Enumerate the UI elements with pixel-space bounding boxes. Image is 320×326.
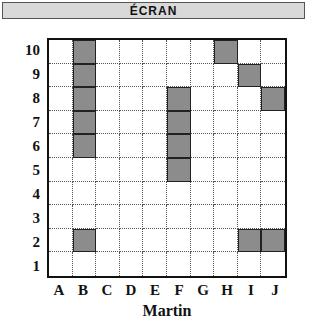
grid-cell-A3[interactable] — [49, 205, 73, 229]
grid-cell-E4[interactable] — [143, 182, 167, 206]
grid-cell-C3[interactable] — [96, 205, 120, 229]
grid-cell-C6[interactable] — [96, 134, 120, 158]
grid-cell-J10[interactable] — [261, 40, 285, 64]
grid-cell-D8[interactable] — [120, 87, 144, 111]
grid-cell-G3[interactable] — [191, 205, 215, 229]
grid-cell-J2[interactable] — [261, 229, 285, 253]
grid-cell-I3[interactable] — [238, 205, 262, 229]
grid-cell-J9[interactable] — [261, 64, 285, 88]
grid-cell-F8[interactable] — [167, 87, 191, 111]
grid-cell-C1[interactable] — [96, 252, 120, 276]
grid-cell-I10[interactable] — [238, 40, 262, 64]
grid-cell-I8[interactable] — [238, 87, 262, 111]
grid-cell-B4[interactable] — [73, 182, 97, 206]
grid-cell-B3[interactable] — [73, 205, 97, 229]
grid-cell-E2[interactable] — [143, 229, 167, 253]
grid-cell-J6[interactable] — [261, 134, 285, 158]
grid-cell-D10[interactable] — [120, 40, 144, 64]
grid-cell-A2[interactable] — [49, 229, 73, 253]
battleship-grid[interactable] — [47, 38, 287, 278]
grid-cell-C8[interactable] — [96, 87, 120, 111]
grid-cell-H5[interactable] — [214, 158, 238, 182]
grid-cell-D2[interactable] — [120, 229, 144, 253]
grid-cell-J3[interactable] — [261, 205, 285, 229]
grid-cell-E5[interactable] — [143, 158, 167, 182]
grid-cell-C7[interactable] — [96, 111, 120, 135]
grid-cell-A4[interactable] — [49, 182, 73, 206]
grid-cell-C5[interactable] — [96, 158, 120, 182]
grid-cell-H7[interactable] — [214, 111, 238, 135]
grid-cell-A8[interactable] — [49, 87, 73, 111]
grid-cell-B9[interactable] — [73, 64, 97, 88]
grid-cell-C10[interactable] — [96, 40, 120, 64]
grid-cell-F6[interactable] — [167, 134, 191, 158]
grid-cell-C2[interactable] — [96, 229, 120, 253]
grid-cell-G8[interactable] — [191, 87, 215, 111]
grid-cell-F10[interactable] — [167, 40, 191, 64]
grid-cell-E3[interactable] — [143, 205, 167, 229]
grid-cell-E8[interactable] — [143, 87, 167, 111]
grid-cell-D7[interactable] — [120, 111, 144, 135]
grid-cell-F5[interactable] — [167, 158, 191, 182]
grid-cell-E10[interactable] — [143, 40, 167, 64]
grid-cell-I6[interactable] — [238, 134, 262, 158]
grid-cell-J4[interactable] — [261, 182, 285, 206]
grid-cell-A1[interactable] — [49, 252, 73, 276]
grid-cell-F4[interactable] — [167, 182, 191, 206]
grid-cell-J1[interactable] — [261, 252, 285, 276]
grid-cell-E1[interactable] — [143, 252, 167, 276]
grid-cell-F2[interactable] — [167, 229, 191, 253]
grid-cell-B8[interactable] — [73, 87, 97, 111]
grid-cell-B6[interactable] — [73, 134, 97, 158]
grid-cell-D3[interactable] — [120, 205, 144, 229]
grid-cell-I2[interactable] — [238, 229, 262, 253]
grid-cell-J8[interactable] — [261, 87, 285, 111]
grid-cell-I9[interactable] — [238, 64, 262, 88]
grid-cell-A9[interactable] — [49, 64, 73, 88]
grid-cell-D6[interactable] — [120, 134, 144, 158]
grid-cell-A7[interactable] — [49, 111, 73, 135]
grid-cell-H6[interactable] — [214, 134, 238, 158]
grid-cell-H4[interactable] — [214, 182, 238, 206]
grid-cell-B1[interactable] — [73, 252, 97, 276]
grid-cell-B5[interactable] — [73, 158, 97, 182]
grid-cell-H10[interactable] — [214, 40, 238, 64]
grid-cell-F7[interactable] — [167, 111, 191, 135]
grid-cell-I4[interactable] — [238, 182, 262, 206]
grid-cell-B2[interactable] — [73, 229, 97, 253]
grid-cell-J7[interactable] — [261, 111, 285, 135]
grid-cell-D4[interactable] — [120, 182, 144, 206]
grid-cell-G10[interactable] — [191, 40, 215, 64]
grid-cell-H8[interactable] — [214, 87, 238, 111]
grid-cell-H3[interactable] — [214, 205, 238, 229]
grid-cell-B10[interactable] — [73, 40, 97, 64]
grid-cell-G1[interactable] — [191, 252, 215, 276]
grid-cell-G9[interactable] — [191, 64, 215, 88]
grid-cell-D9[interactable] — [120, 64, 144, 88]
grid-cell-H2[interactable] — [214, 229, 238, 253]
grid-cell-G7[interactable] — [191, 111, 215, 135]
grid-cell-I1[interactable] — [238, 252, 262, 276]
grid-cell-G6[interactable] — [191, 134, 215, 158]
grid-cell-A10[interactable] — [49, 40, 73, 64]
grid-cell-A5[interactable] — [49, 158, 73, 182]
grid-cell-G4[interactable] — [191, 182, 215, 206]
grid-cell-G5[interactable] — [191, 158, 215, 182]
grid-cell-D5[interactable] — [120, 158, 144, 182]
grid-cell-C4[interactable] — [96, 182, 120, 206]
grid-cell-E9[interactable] — [143, 64, 167, 88]
grid-cell-A6[interactable] — [49, 134, 73, 158]
grid-cell-F3[interactable] — [167, 205, 191, 229]
grid-cell-I7[interactable] — [238, 111, 262, 135]
grid-cell-H9[interactable] — [214, 64, 238, 88]
grid-cell-B7[interactable] — [73, 111, 97, 135]
grid-cell-H1[interactable] — [214, 252, 238, 276]
grid-cell-E7[interactable] — [143, 111, 167, 135]
grid-cell-F9[interactable] — [167, 64, 191, 88]
grid-cell-G2[interactable] — [191, 229, 215, 253]
grid-cell-F1[interactable] — [167, 252, 191, 276]
grid-cell-E6[interactable] — [143, 134, 167, 158]
grid-cell-I5[interactable] — [238, 158, 262, 182]
grid-cell-J5[interactable] — [261, 158, 285, 182]
grid-cell-D1[interactable] — [120, 252, 144, 276]
